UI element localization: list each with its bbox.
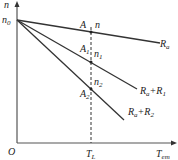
tl-label: TL [86,148,96,160]
x-axis-label: Tem [156,148,170,160]
label-n1: n1 [94,48,103,61]
line-ra-r1 [17,20,137,89]
y-axis-arrow-icon [15,1,20,7]
point-a1 [90,61,93,64]
speed-torque-diagram: n n0 O TL Tem A n A1 n1 A2 n2 Ra Ra+R1 R… [0,0,178,160]
n0-label: n0 [2,14,11,27]
point-a2 [90,88,93,91]
label-ra-r2: Ra+R2 [127,106,154,119]
label-ra-r1: Ra+R1 [139,85,166,98]
label-a: A [79,19,87,30]
label-a2: A2 [79,88,90,101]
origin-label: O [8,146,15,157]
y-axis-label: n [4,0,9,10]
label-n: n [95,19,100,30]
label-n2: n2 [94,76,103,89]
point-a [90,31,93,34]
label-a1: A1 [79,43,90,56]
x-axis-arrow-icon [171,141,177,146]
label-ra: Ra [159,38,170,51]
